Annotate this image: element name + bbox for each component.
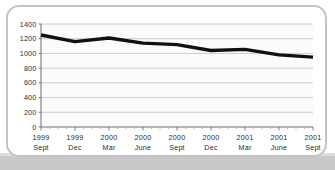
x-axis-tick-label-year: 1999 bbox=[67, 133, 84, 142]
x-axis-tick-labels: 1999Sept1999Dec2000Mar2000June2000Sept20… bbox=[33, 133, 322, 152]
x-axis-tick-label-year: 2001 bbox=[271, 133, 288, 142]
x-axis-tick-label-year: 2001 bbox=[237, 133, 254, 142]
y-axis-tick-label: 600 bbox=[24, 78, 37, 87]
x-axis-tick-label-month: June bbox=[135, 143, 151, 152]
x-axis-tick-label-month: June bbox=[271, 143, 287, 152]
y-axis-tick-label: 1200 bbox=[20, 34, 37, 43]
x-axis-tick-label-month: Sept bbox=[33, 143, 49, 152]
y-axis-tick-label: 1000 bbox=[20, 49, 37, 58]
y-axis-tick-label: 1400 bbox=[20, 20, 37, 29]
page-bottom-band bbox=[0, 156, 335, 170]
plot-area-wrapper: 0200400600800100012001400 1999Sept1999De… bbox=[6, 5, 327, 157]
line-chart-figure: 0200400600800100012001400 1999Sept1999De… bbox=[6, 5, 327, 157]
screenshot-root: 0200400600800100012001400 1999Sept1999De… bbox=[0, 0, 335, 170]
y-axis-tick-label: 200 bbox=[24, 108, 37, 117]
x-axis-tick-label-year: 2000 bbox=[101, 133, 118, 142]
x-axis-tick-label-month: Sept bbox=[169, 143, 185, 152]
x-axis-tick-label-month: Mar bbox=[239, 143, 252, 152]
x-axis-tick-label-year: 1999 bbox=[33, 133, 50, 142]
y-axis-tick-labels: 0200400600800100012001400 bbox=[20, 20, 37, 132]
x-axis-tick-label-month: Dec bbox=[204, 143, 218, 152]
x-axis-tick-label-year: 2001 bbox=[305, 133, 322, 142]
y-axis-tick-label: 400 bbox=[24, 93, 37, 102]
x-axis-tick-label-month: Mar bbox=[103, 143, 116, 152]
x-axis-tick-label-year: 2000 bbox=[135, 133, 152, 142]
x-axis-tick-label-month: Dec bbox=[68, 143, 82, 152]
x-axis-tick-marks bbox=[41, 127, 313, 131]
x-axis-tick-label-year: 2000 bbox=[169, 133, 186, 142]
line-chart-svg: 0200400600800100012001400 1999Sept1999De… bbox=[6, 5, 327, 157]
y-axis-tick-label: 800 bbox=[24, 64, 37, 73]
y-axis-tick-label: 0 bbox=[32, 123, 36, 132]
x-axis-tick-label-year: 2000 bbox=[203, 133, 220, 142]
x-axis-tick-label-month: Sept bbox=[305, 143, 321, 152]
